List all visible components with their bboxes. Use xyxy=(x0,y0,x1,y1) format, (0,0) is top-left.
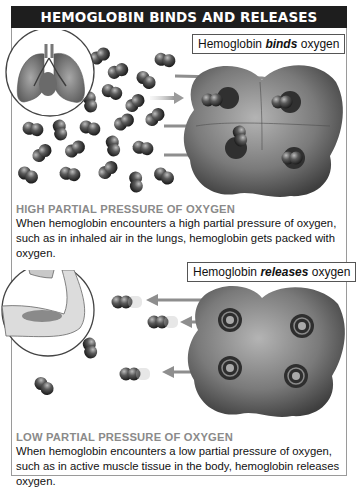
binds-emphasis: binds xyxy=(265,37,297,51)
lungs-inset xyxy=(6,30,94,116)
releases-illustration xyxy=(0,270,352,420)
hemoglobin-unbound xyxy=(188,286,345,417)
low-pressure-description: When hemoglobin encounters a low partial… xyxy=(16,444,346,489)
arm-muscle-inset xyxy=(2,270,94,356)
binds-illustration xyxy=(0,30,352,200)
diagram-title: HEMOGLOBIN BINDS AND RELEASES OXYGEN xyxy=(11,6,347,28)
hemoglobin-bound xyxy=(184,65,343,197)
high-pressure-description: When hemoglobin encounters a high partia… xyxy=(16,216,346,261)
low-pressure-heading: LOW PARTIAL PRESSURE OF OXYGEN xyxy=(16,431,233,443)
binds-label: Hemoglobin binds oxygen xyxy=(192,34,345,54)
high-pressure-heading: HIGH PARTIAL PRESSURE OF OXYGEN xyxy=(16,203,235,215)
